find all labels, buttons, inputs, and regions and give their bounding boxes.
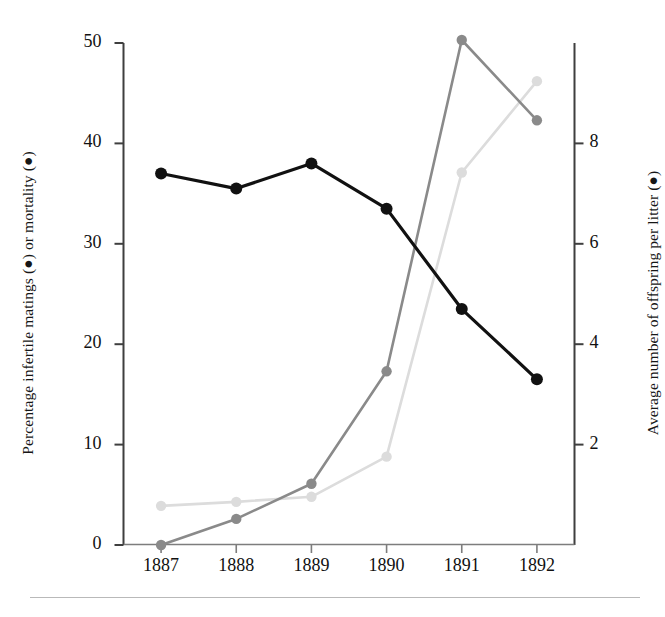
data-point	[230, 183, 242, 195]
data-point	[531, 373, 543, 385]
data-point	[156, 540, 166, 550]
x-tick-label: 1887	[126, 555, 196, 576]
data-point	[532, 76, 542, 86]
data-point	[457, 167, 467, 177]
data-point	[381, 203, 393, 215]
data-point	[156, 501, 166, 511]
right-tick-label: 2	[590, 433, 630, 454]
x-tick-label: 1890	[352, 555, 422, 576]
right-axis-ticks	[575, 143, 584, 444]
left-tick-label: 20	[62, 332, 102, 353]
data-point	[306, 492, 316, 502]
left-tick-label: 50	[62, 31, 102, 52]
right-tick-label: 6	[590, 232, 630, 253]
data-point	[305, 157, 317, 169]
footer-rule	[30, 597, 640, 598]
series-layer	[155, 35, 543, 550]
data-point	[381, 451, 391, 461]
data-point	[456, 303, 468, 315]
right-tick-label: 4	[590, 332, 630, 353]
x-tick-label: 1891	[427, 555, 497, 576]
data-point	[457, 35, 467, 45]
x-tick-label: 1889	[276, 555, 346, 576]
series-line	[161, 81, 537, 506]
series-line	[161, 163, 537, 379]
data-point	[306, 479, 316, 489]
data-point	[231, 497, 241, 507]
left-tick-label: 30	[62, 232, 102, 253]
data-point	[532, 115, 542, 125]
left-tick-label: 40	[62, 131, 102, 152]
right-axis-title: Average number of offspring per litter (…	[644, 83, 662, 523]
series-0	[155, 157, 543, 385]
data-point	[381, 366, 391, 376]
series-2	[156, 76, 542, 511]
x-tick-label: 1888	[201, 555, 271, 576]
left-axis-ticks	[115, 43, 124, 545]
x-tick-label: 1892	[502, 555, 572, 576]
right-tick-label: 8	[590, 131, 630, 152]
series-1	[156, 35, 542, 550]
bottom-axis-ticks	[161, 545, 537, 553]
left-tick-label: 10	[62, 433, 102, 454]
left-tick-label: 0	[62, 533, 102, 554]
left-axis-title: Percentage infertile matings (●) or mort…	[19, 83, 37, 523]
chart-plot-area	[0, 0, 665, 617]
data-point	[155, 168, 167, 180]
data-point	[231, 514, 241, 524]
series-line	[161, 40, 537, 545]
